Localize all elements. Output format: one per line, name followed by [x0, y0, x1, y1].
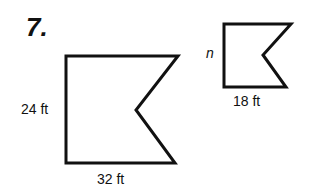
large-flag-figure: [66, 56, 178, 163]
small-figure-bottom-label: 18 ft: [233, 94, 260, 108]
large-figure-bottom-label: 32 ft: [97, 172, 124, 186]
small-flag-figure: [224, 24, 291, 87]
large-figure-side-label: 24 ft: [21, 102, 48, 116]
small-figure-side-label: n: [206, 46, 214, 60]
